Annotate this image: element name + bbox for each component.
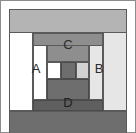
figure-canvas: C A B D (0, 0, 136, 133)
outer-frame-bottom-band (9, 111, 127, 133)
label-c: C (48, 34, 88, 54)
inner-cell-light (76, 62, 89, 79)
outer-frame-top-band (9, 9, 127, 33)
label-d: D (48, 92, 88, 112)
label-b: B (92, 60, 106, 76)
label-a: A (29, 60, 43, 76)
outer-frame-right-band (103, 33, 127, 111)
inner-cell-dark (61, 62, 76, 79)
inner-cell-white (47, 62, 61, 79)
